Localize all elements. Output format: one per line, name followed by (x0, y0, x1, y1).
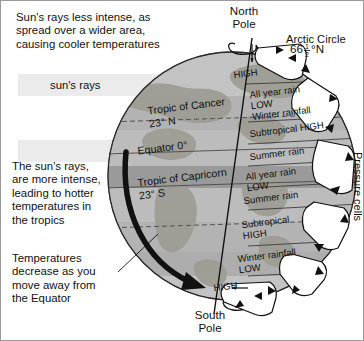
arctic-circle-label: Arctic Circle (286, 33, 346, 46)
pressure-cells-label-group: Pressure cells (352, 152, 364, 222)
north-pole-label-line1: North (216, 4, 272, 18)
bottom-note: Temperatures decrease as you move away f… (12, 252, 162, 306)
south-pole-label-line2: Pole (182, 321, 238, 335)
sun-rays-label: sun's rays (50, 79, 101, 92)
north-pole-label-line2: Pole (216, 17, 272, 31)
mid-note: The sun's rays, are more intense, leadin… (12, 160, 152, 227)
pressure-cells-label: Pressure cells (352, 152, 364, 222)
south-pole-label-line1: South (182, 308, 238, 322)
arctic-lat-fraction-den: 2 (305, 51, 309, 58)
top-note: Sun's rays less intense, as spread over … (16, 11, 216, 51)
diagram-canvas: Tropic of Cancer 23° N Equator 0° Tropic… (0, 0, 364, 341)
